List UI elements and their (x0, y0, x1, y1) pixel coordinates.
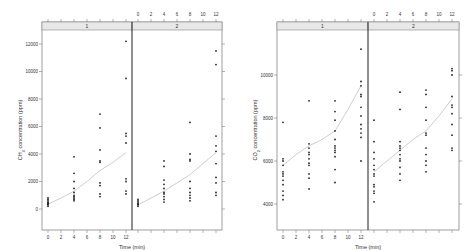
x-tick-label: 0 (373, 12, 376, 17)
data-point (373, 169, 375, 171)
data-point (189, 197, 191, 199)
data-point (189, 192, 191, 194)
data-point (282, 199, 284, 201)
data-point (125, 178, 127, 180)
data-point (189, 153, 191, 155)
data-point (163, 160, 165, 162)
data-point (99, 182, 101, 184)
data-point (125, 40, 127, 42)
data-point (73, 188, 75, 190)
data-point (99, 193, 101, 195)
data-point (373, 164, 375, 166)
data-point (282, 171, 284, 173)
data-point (308, 152, 310, 154)
data-point (451, 113, 453, 115)
data-point (215, 194, 217, 196)
data-point (215, 135, 217, 137)
data-point (399, 147, 401, 149)
data-point (360, 128, 362, 130)
data-point (360, 115, 362, 117)
x-tick-label: 12 (358, 235, 364, 240)
y-tick-label: 6000 (263, 159, 274, 164)
x-tick-label: 6 (176, 12, 179, 17)
data-point (215, 50, 217, 52)
data-point (125, 78, 127, 80)
data-point (282, 121, 284, 123)
data-point (308, 100, 310, 102)
data-point (73, 156, 75, 158)
y-axis-label: CH4 concentration (ppm) (17, 100, 26, 161)
data-point (73, 192, 75, 194)
data-point (360, 132, 362, 134)
x-tick-label: 10 (110, 235, 116, 240)
data-point (282, 160, 284, 162)
data-point (189, 181, 191, 183)
data-point (360, 96, 362, 98)
data-point (425, 171, 427, 173)
data-point (373, 184, 375, 186)
data-point (282, 195, 284, 197)
data-point (163, 196, 165, 198)
data-point (215, 182, 217, 184)
data-point (73, 172, 75, 174)
x-tick-label: 8 (189, 12, 192, 17)
data-point (399, 141, 401, 143)
y-tick-label: 2000 (28, 179, 39, 184)
data-point (373, 141, 375, 143)
y-axis-label: CO2 concentration (ppm) (252, 99, 261, 160)
x-tick-label: 12 (449, 12, 455, 17)
data-point (451, 104, 453, 106)
data-point (163, 201, 165, 203)
data-point (189, 200, 191, 202)
data-point (125, 190, 127, 192)
data-point (399, 167, 401, 169)
data-point (334, 182, 336, 184)
x-tick-label: 6 (321, 235, 324, 240)
data-point (360, 160, 362, 162)
data-point (373, 192, 375, 194)
data-point (282, 179, 284, 181)
x-tick-label: 0 (282, 235, 285, 240)
y-tick-label: 0 (35, 207, 38, 212)
data-point (99, 185, 101, 187)
x-tick-label: 10 (345, 235, 351, 240)
data-point (334, 100, 336, 102)
data-point (373, 173, 375, 175)
data-point (425, 147, 427, 149)
data-point (163, 183, 165, 185)
data-point (334, 130, 336, 132)
y-tick-label: 10000 (25, 69, 38, 74)
data-point (373, 158, 375, 160)
data-point (99, 113, 101, 115)
data-point (189, 159, 191, 161)
data-point (360, 124, 362, 126)
data-point (425, 132, 427, 134)
data-point (189, 194, 191, 196)
y-tick-label: 4000 (28, 152, 39, 157)
data-point (425, 106, 427, 108)
data-point (125, 193, 127, 195)
data-point (215, 64, 217, 66)
chart-ch4: 1024681012202468101202000400060008000100… (17, 12, 225, 250)
data-point (47, 202, 49, 204)
data-point (308, 158, 310, 160)
trend-line (374, 99, 452, 172)
data-point (334, 111, 336, 113)
data-point (425, 154, 427, 156)
y-tick-label: 6000 (28, 124, 39, 129)
data-point (360, 94, 362, 96)
data-point (73, 199, 75, 201)
data-point (399, 91, 401, 93)
data-point (373, 119, 375, 121)
data-point (282, 175, 284, 177)
data-point (451, 106, 453, 108)
x-tick-label: 10 (200, 12, 206, 17)
x-tick-label: 4 (308, 235, 311, 240)
data-point (334, 119, 336, 121)
data-point (125, 133, 127, 135)
data-point (99, 196, 101, 198)
data-point (451, 149, 453, 151)
data-point (451, 68, 453, 70)
data-point (360, 85, 362, 87)
x-tick-label: 4 (73, 235, 76, 240)
